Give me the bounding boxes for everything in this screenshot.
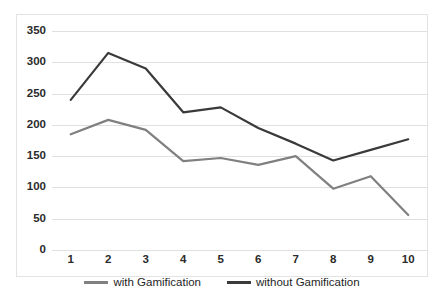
legend-label: with Gamification <box>113 277 201 289</box>
y-axis-tick-label: 50 <box>33 213 46 225</box>
x-axis-tick-label: 1 <box>68 254 74 266</box>
legend-label: without Gamification <box>256 277 360 289</box>
legend-color-swatch <box>227 281 251 284</box>
legend-entry[interactable]: without Gamification <box>227 277 360 289</box>
chart-legend: with Gamificationwithout Gamification <box>17 277 427 289</box>
y-axis-tick-label: 300 <box>27 57 46 69</box>
y-axis-tick-label: 250 <box>27 88 46 100</box>
series-line <box>71 120 409 215</box>
gridline <box>52 250 427 251</box>
x-axis-tick-label: 9 <box>368 254 374 266</box>
y-axis-tick-label: 200 <box>27 119 46 131</box>
x-axis-tick-label: 2 <box>105 254 111 266</box>
series-line <box>71 53 409 161</box>
y-axis-tick-label: 0 <box>40 244 46 256</box>
plot-area: 050100150200250300350 <box>52 31 427 250</box>
chart-figure: 050100150200250300350 12345678910 with G… <box>16 14 428 277</box>
x-axis-tick-label: 6 <box>255 254 261 266</box>
x-axis-tick-label: 7 <box>293 254 299 266</box>
y-axis-tick-label: 350 <box>27 25 46 37</box>
series-lines <box>52 31 427 250</box>
x-axis-labels: 12345678910 <box>52 254 427 272</box>
x-axis-tick-label: 8 <box>330 254 336 266</box>
x-axis-tick-label: 3 <box>143 254 149 266</box>
x-axis-tick-label: 5 <box>218 254 224 266</box>
x-axis-tick-label: 4 <box>180 254 186 266</box>
legend-color-swatch <box>84 281 108 284</box>
y-axis-tick-label: 100 <box>27 182 46 194</box>
legend-entry[interactable]: with Gamification <box>84 277 201 289</box>
x-axis-tick-label: 10 <box>402 254 415 266</box>
chart-title <box>17 15 427 23</box>
y-axis-tick-label: 150 <box>27 150 46 162</box>
